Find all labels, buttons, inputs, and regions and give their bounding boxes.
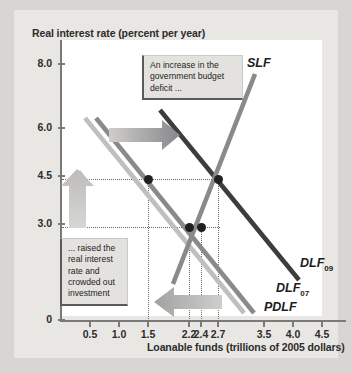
- curve-label-dlf09: DLF09: [300, 256, 333, 273]
- x-tick-40: [292, 320, 294, 327]
- x-tick-45: [321, 320, 323, 327]
- x-tick-label-27: 2.7: [203, 328, 233, 340]
- y-tick-label-8: 8.0: [22, 57, 52, 69]
- guide-vertical-15: [148, 179, 149, 321]
- y-tick-label-3: 3.0: [22, 217, 52, 229]
- y-tick-label-6: 6.0: [22, 121, 52, 133]
- y-tick-6: [58, 127, 65, 129]
- curve-label-dlf09-sub: 09: [324, 264, 333, 273]
- y-tick-45: [58, 175, 65, 177]
- x-tick-35: [263, 320, 265, 327]
- curve-label-dlf07: DLF07: [276, 281, 309, 298]
- y-tick-8: [58, 63, 65, 65]
- equilibrium-dot-2-2-3-0: [185, 223, 194, 232]
- y-axis-title: Real interest rate (percent per year): [32, 27, 205, 39]
- equilibrium-dot-1-5-4-5: [144, 175, 153, 184]
- curve-label-dlf09-base: DLF: [300, 256, 324, 270]
- x-tick-label-15: 1.5: [133, 328, 163, 340]
- guide-vertical-22: [189, 227, 190, 321]
- x-tick-22: [188, 320, 190, 327]
- x-tick-15: [147, 320, 149, 327]
- equilibrium-dot-2-7-4-5: [214, 175, 223, 184]
- x-axis-title: Loanable funds (trillions of 2005 dollar…: [147, 341, 345, 353]
- x-tick-label-35: 3.5: [249, 328, 279, 340]
- curve-label-dlf07-base: DLF: [276, 281, 300, 295]
- x-tick-label-10: 1.0: [104, 328, 134, 340]
- x-tick-label-45: 4.5: [307, 328, 337, 340]
- figure-panel: Real interest rate (percent per year) Lo…: [14, 10, 338, 358]
- x-tick-label-05: 0.5: [75, 328, 105, 340]
- x-tick-24: [200, 320, 202, 327]
- x-tick-label-40: 4.0: [278, 328, 308, 340]
- curve-label-slf: SLF: [247, 56, 271, 70]
- curve-label-pdlf: PDLF: [264, 300, 297, 314]
- y-tick-label-45: 4.5: [22, 169, 52, 181]
- x-tick-10: [118, 320, 120, 327]
- curve-label-dlf07-sub: 07: [300, 289, 309, 298]
- x-axis-line: [60, 320, 346, 322]
- guide-vertical-27: [218, 179, 219, 321]
- annotation-budget-deficit: An increase in the government budget def…: [142, 55, 243, 100]
- guide-horizontal-45: [62, 179, 222, 180]
- x-tick-27: [217, 320, 219, 327]
- y-tick-3: [58, 223, 65, 225]
- equilibrium-dot-2-4-3-0: [197, 223, 206, 232]
- guide-vertical-24: [201, 227, 202, 321]
- x-tick-05: [89, 320, 91, 327]
- annotation-crowding-out: ... raised the real interest rate and cr…: [60, 238, 128, 306]
- y-tick-label-0: 0: [22, 313, 52, 325]
- y-tick-0: [58, 319, 65, 321]
